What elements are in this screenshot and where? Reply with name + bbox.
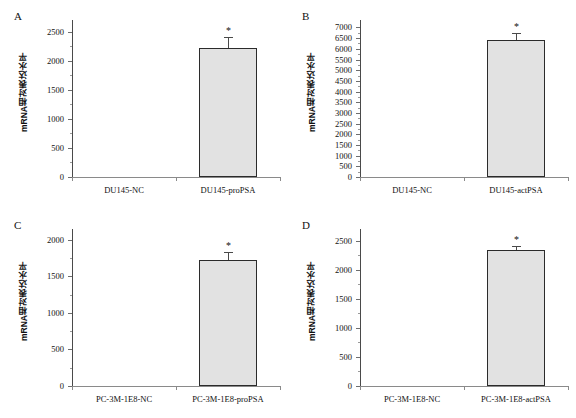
y-axis-tick	[356, 113, 360, 114]
y-axis-tick-label: 7000	[312, 22, 352, 32]
y-axis-tick	[356, 60, 360, 61]
y-axis-tick-label: 5500	[312, 55, 352, 65]
x-axis-tick	[72, 177, 73, 181]
y-axis-tick-label: 0	[24, 381, 64, 391]
y-axis-line	[72, 229, 73, 386]
y-axis-tick-label: 1000	[24, 114, 64, 124]
y-axis-minor-tick	[358, 97, 361, 98]
x-axis-tick	[568, 386, 569, 390]
y-axis-minor-tick	[358, 313, 361, 314]
y-axis-tick-label: 3500	[312, 97, 352, 107]
x-axis-category-label: PC-3M-1E8-actPSA	[481, 394, 551, 404]
panel-letter-b: B	[302, 10, 310, 22]
bar	[487, 250, 545, 386]
error-bar	[228, 252, 229, 260]
y-axis-minor-tick	[358, 108, 361, 109]
y-axis-tick	[68, 276, 72, 277]
y-axis-minor-tick	[358, 86, 361, 87]
y-axis-tick-label: 2000	[24, 235, 64, 245]
y-axis-tick	[68, 349, 72, 350]
x-axis-tick	[176, 386, 177, 390]
x-axis-category-label: PC-3M-1E8-proPSA	[192, 394, 263, 404]
error-bar-cap	[224, 252, 233, 253]
y-axis-minor-tick	[358, 76, 361, 77]
y-axis-tick-label: 3000	[312, 108, 352, 118]
y-axis-tick-label: 5000	[312, 65, 352, 75]
y-axis-minor-tick	[70, 75, 73, 76]
x-axis-category-label: DU145-actPSA	[489, 185, 542, 195]
y-axis-minor-tick	[70, 368, 73, 369]
y-axis-minor-tick	[358, 172, 361, 173]
plot-area-a: 05001000150020002500DU145-NC*DU145-proPS…	[72, 20, 280, 177]
y-axis-tick	[356, 299, 360, 300]
y-axis-tick-label: 1000	[24, 308, 64, 318]
y-axis-minor-tick	[358, 54, 361, 55]
y-axis-tick	[356, 241, 360, 242]
x-axis-tick	[568, 177, 569, 181]
error-bar	[228, 37, 229, 48]
y-axis-tick	[356, 81, 360, 82]
y-axis-tick-label: 1500	[312, 294, 352, 304]
bar	[199, 48, 257, 177]
y-axis-line	[360, 229, 361, 386]
y-axis-tick-label: 2000	[24, 56, 64, 66]
y-axis-tick-label: 4500	[312, 76, 352, 86]
y-axis-minor-tick	[70, 258, 73, 259]
y-axis-tick	[356, 145, 360, 146]
error-bar-cap	[512, 33, 521, 34]
y-axis-tick	[356, 70, 360, 71]
x-axis-tick	[280, 177, 281, 181]
y-axis-minor-tick	[358, 129, 361, 130]
bar	[199, 260, 257, 386]
y-axis-tick-label: 2500	[312, 236, 352, 246]
x-axis-tick	[360, 386, 361, 390]
figure-four-panel-bar-charts: A mRNA相对表达水平 05001000150020002500DU145-N…	[0, 0, 576, 418]
y-axis-minor-tick	[70, 133, 73, 134]
y-axis-tick	[68, 90, 72, 91]
y-axis-tick-label: 0	[312, 172, 352, 182]
x-axis-tick	[464, 177, 465, 181]
y-axis-tick	[68, 61, 72, 62]
panel-letter-a: A	[14, 10, 22, 22]
y-axis-line	[360, 20, 361, 177]
panel-letter-d: D	[302, 219, 310, 231]
x-axis-tick	[176, 177, 177, 181]
y-axis-tick-label: 2000	[312, 129, 352, 139]
y-axis-tick-label: 1500	[24, 271, 64, 281]
y-axis-minor-tick	[358, 65, 361, 66]
y-axis-tick-label: 6000	[312, 44, 352, 54]
bar	[487, 40, 545, 177]
x-axis-tick	[464, 386, 465, 390]
x-axis-category-label: DU145-NC	[104, 185, 144, 195]
y-axis-tick	[68, 240, 72, 241]
y-axis-tick-label: 1000	[312, 323, 352, 333]
y-axis-tick-label: 0	[24, 172, 64, 182]
y-axis-tick	[356, 166, 360, 167]
x-axis-tick	[280, 386, 281, 390]
y-axis-minor-tick	[70, 295, 73, 296]
significance-marker: *	[226, 241, 231, 251]
panel-letter-c: C	[14, 219, 22, 231]
error-bar-cap	[224, 37, 233, 38]
y-axis-tick	[356, 92, 360, 93]
plot-area-d: 05001000150020002500PC-3M-1E8-NC*PC-3M-1…	[360, 229, 568, 386]
y-axis-minor-tick	[358, 118, 361, 119]
y-axis-minor-tick	[358, 43, 361, 44]
y-axis-tick	[356, 124, 360, 125]
y-axis-minor-tick	[358, 140, 361, 141]
y-axis-tick-label: 500	[312, 161, 352, 171]
x-axis-tick	[72, 386, 73, 390]
y-axis-tick-label: 2500	[24, 27, 64, 37]
y-axis-tick	[68, 119, 72, 120]
y-axis-tick-label: 4000	[312, 87, 352, 97]
y-axis-minor-tick	[358, 255, 361, 256]
y-axis-minor-tick	[358, 161, 361, 162]
y-axis-tick	[356, 357, 360, 358]
plot-area-c: 0500100015002000PC-3M-1E8-NC*PC-3M-1E8-p…	[72, 229, 280, 386]
panel-d: D mRNA相对表达水平 05001000150020002500PC-3M-1…	[288, 209, 576, 418]
y-axis-tick-label: 500	[312, 352, 352, 362]
panel-a: A mRNA相对表达水平 05001000150020002500DU145-N…	[0, 0, 288, 209]
y-axis-tick	[356, 270, 360, 271]
y-axis-tick-label: 1500	[312, 140, 352, 150]
y-axis-minor-tick	[358, 371, 361, 372]
